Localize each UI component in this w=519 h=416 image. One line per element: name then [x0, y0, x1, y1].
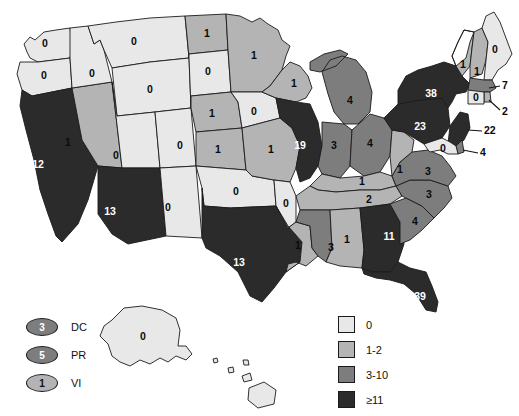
label-LA: 1 — [295, 239, 301, 251]
label-FL: 39 — [414, 290, 426, 302]
territory-row-pr: 5 PR — [26, 341, 156, 369]
label-VA: 3 — [425, 165, 431, 177]
hawaii-island-3[interactable] — [243, 360, 249, 365]
legend-row-2: 3-10 — [338, 362, 458, 387]
label-ID: 0 — [89, 67, 95, 79]
label-WI: 1 — [291, 77, 297, 89]
label-AL: 1 — [344, 233, 350, 245]
label-KS: 1 — [215, 143, 221, 155]
label-OK: 0 — [233, 185, 239, 197]
legend-label-2: 3-10 — [366, 369, 388, 381]
state-NE[interactable] — [191, 92, 242, 132]
territory-pill-pr: 5 — [26, 346, 58, 364]
label-NH: 1 — [474, 65, 480, 77]
label-IL: 19 — [294, 139, 306, 151]
label-PA: 23 — [414, 120, 426, 132]
label-MO: 1 — [268, 143, 274, 155]
territory-pill-vi: 1 — [26, 374, 58, 392]
hawaii-island-5[interactable] — [248, 382, 276, 408]
territory-row-vi: 1 VI — [26, 369, 156, 397]
label-AR: 0 — [283, 197, 289, 209]
value-legend: 0 1-2 3-10 ≥11 — [338, 312, 458, 412]
label-NY: 38 — [425, 87, 437, 99]
state-NJ[interactable] — [448, 112, 470, 146]
callout-label-RI: 2 — [502, 105, 508, 117]
hawaii-island-1[interactable] — [213, 358, 218, 363]
label-CO: 0 — [177, 139, 183, 151]
territory-legend: 3 DC 5 PR 1 VI — [26, 313, 156, 397]
label-WV: 1 — [397, 163, 403, 175]
label-NM: 0 — [165, 201, 171, 213]
hawaii-island-2[interactable] — [228, 367, 234, 373]
callout-label-DE: 4 — [480, 146, 486, 158]
label-ME: 0 — [492, 43, 498, 55]
label-MT: 0 — [131, 35, 137, 47]
label-SD: 0 — [205, 65, 211, 77]
legend-label-1: 1-2 — [366, 344, 382, 356]
legend-row-0: 0 — [338, 312, 458, 337]
label-CT: 0 — [473, 91, 479, 103]
label-OH: 4 — [367, 137, 373, 149]
territory-label-dc: DC — [71, 321, 87, 333]
state-CO[interactable] — [155, 108, 196, 168]
territory-pill-dc: 3 — [26, 318, 58, 336]
territory-label-pr: PR — [71, 349, 86, 361]
label-UT: 0 — [113, 149, 119, 161]
callout-label-NJ: 22 — [484, 124, 496, 136]
label-IN: 3 — [331, 139, 337, 151]
label-WY: 0 — [147, 83, 153, 95]
label-VT: 1 — [460, 58, 466, 70]
callout-label-MA: 7 — [502, 79, 508, 91]
label-AZ: 13 — [104, 205, 116, 217]
label-ND: 1 — [204, 27, 210, 39]
legend-label-3: ≥11 — [366, 394, 383, 406]
leader-line-NJ — [468, 130, 482, 131]
label-NE: 1 — [209, 107, 215, 119]
leader-line-RI — [489, 100, 500, 110]
label-IA: 0 — [251, 105, 257, 117]
label-WA: 0 — [42, 37, 48, 49]
territory-label-vi: VI — [71, 377, 81, 389]
legend-row-1: 1-2 — [338, 337, 458, 362]
legend-swatch-0 — [338, 316, 355, 333]
label-KY: 1 — [359, 175, 365, 187]
label-MS: 3 — [328, 241, 334, 253]
label-TN: 2 — [366, 193, 372, 205]
label-TX: 13 — [233, 256, 245, 268]
state-KS[interactable] — [196, 128, 246, 170]
leader-line-DE — [463, 150, 478, 153]
label-NC: 3 — [426, 188, 432, 200]
territory-row-dc: 3 DC — [26, 313, 156, 341]
label-GA: 11 — [383, 230, 394, 242]
label-CA: 12 — [32, 158, 44, 170]
label-MD: 0 — [440, 142, 446, 154]
state-WA[interactable] — [24, 28, 72, 62]
label-OR: 0 — [41, 69, 47, 81]
legend-swatch-3 — [338, 391, 355, 408]
legend-row-3: ≥11 — [338, 387, 458, 412]
state-MI[interactable] — [310, 50, 372, 124]
hawaii-island-4[interactable] — [242, 373, 252, 382]
legend-label-0: 0 — [366, 319, 372, 331]
label-MN: 1 — [251, 49, 257, 61]
us-choropleth-map: 0 0 12 1 0 0 0 0 13 0 0 1 0 1 1 0 13 1 0… — [0, 0, 519, 416]
label-SC: 4 — [412, 215, 418, 227]
legend-swatch-2 — [338, 366, 355, 383]
legend-swatch-1 — [338, 341, 355, 358]
label-NV: 1 — [65, 136, 71, 148]
label-MI: 4 — [347, 94, 353, 106]
